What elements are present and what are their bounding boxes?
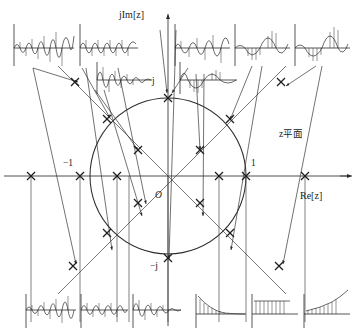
- pole-outer: [277, 78, 285, 86]
- diagonal-guides: [58, 66, 286, 294]
- waveform-panel: [295, 24, 350, 66]
- pole-outer: [275, 262, 283, 270]
- tick-label-minus-j: −j: [150, 261, 158, 271]
- waveform-panel: [175, 24, 230, 66]
- z-plane-canvas: [0, 0, 356, 332]
- z-plane-label: z平面: [279, 126, 303, 140]
- waveform-panel: [133, 294, 181, 328]
- pole-diag: [134, 199, 142, 207]
- waveform-panel: [304, 290, 350, 328]
- pole-diag: [103, 115, 111, 123]
- waveform-panel: [180, 62, 237, 94]
- tick-label-minus-one: −1: [63, 158, 73, 168]
- tick-label-j: j: [152, 76, 155, 86]
- waveform-panel: [252, 294, 298, 328]
- axes: [4, 14, 352, 326]
- z-plane-figure: jIm[z] Re[z] O −1 1 j −j z平面: [0, 0, 356, 332]
- pole-diag: [226, 229, 234, 237]
- waveform-panel: [80, 24, 138, 66]
- waveform-panel: [14, 24, 74, 66]
- waveform-panel: [81, 294, 128, 328]
- waveform-panel: [26, 294, 76, 328]
- waveform-panel: [97, 62, 152, 94]
- drop-lines: [31, 176, 305, 322]
- origin-label: O: [155, 190, 162, 200]
- imaginary-axis-label: jIm[z]: [119, 9, 144, 20]
- tick-label-one: 1: [251, 158, 256, 168]
- connector-arrows: [33, 30, 322, 264]
- real-axis-label: Re[z]: [300, 190, 322, 201]
- waveform-panel: [196, 294, 246, 328]
- waveform-panel: [235, 24, 290, 66]
- pole-outer: [69, 262, 77, 270]
